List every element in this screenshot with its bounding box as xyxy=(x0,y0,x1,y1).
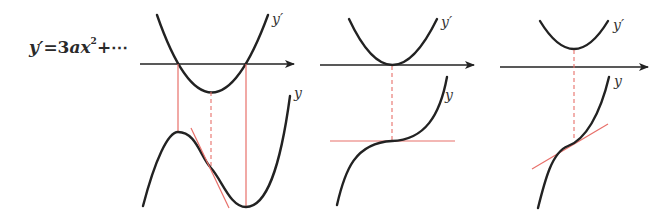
derivative-label: y′ xyxy=(440,14,453,30)
derivative-label: y′ xyxy=(612,17,625,33)
panel-two-roots: y′ y xyxy=(140,11,303,208)
derivative-parabola xyxy=(349,19,437,65)
derivative-label: y′ xyxy=(271,11,284,27)
panel-no-roots: y′ y xyxy=(500,17,648,208)
function-label: y xyxy=(293,85,303,101)
cubic-curve xyxy=(538,77,609,208)
function-label: y xyxy=(444,87,454,103)
cubic-derivative-diagram: y′ y y′ y y′ y xyxy=(0,0,658,215)
cubic-curve xyxy=(143,96,290,207)
derivative-parabola xyxy=(157,15,268,93)
derivative-parabola xyxy=(540,21,608,49)
inflection-tangent xyxy=(191,128,229,208)
panel-double-root: y′ y xyxy=(320,14,474,205)
function-label: y xyxy=(613,73,623,89)
